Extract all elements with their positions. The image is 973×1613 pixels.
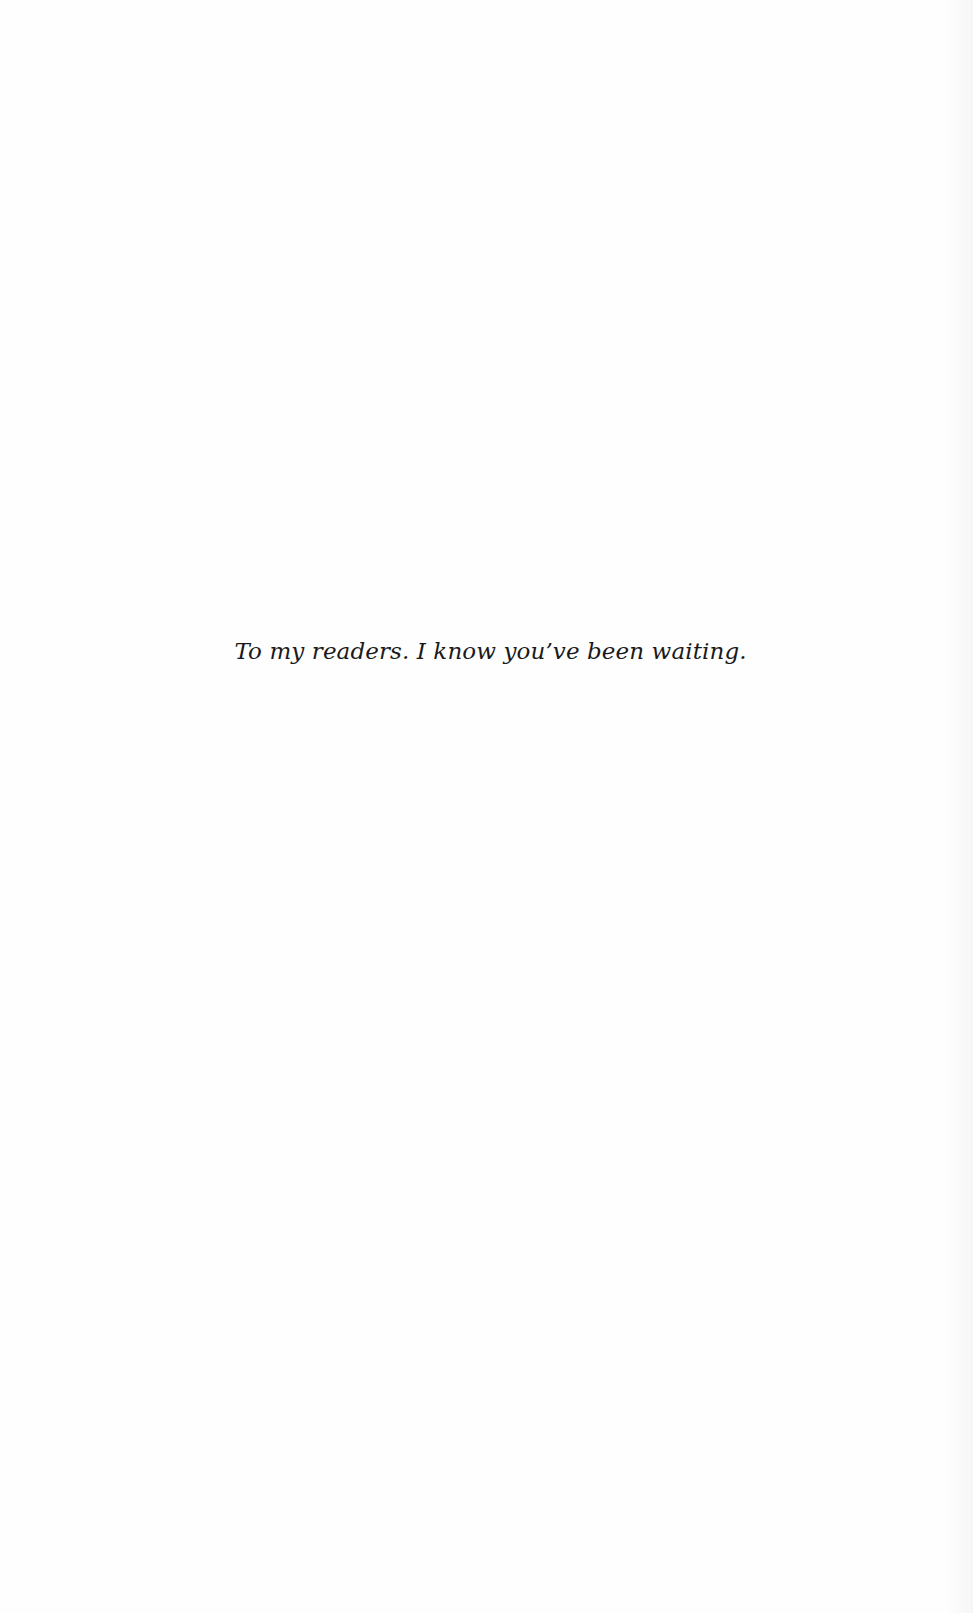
book-page: To my readers. I know you’ve been waitin… — [0, 0, 973, 1613]
page-edge-shadow — [945, 0, 973, 1613]
dedication-text: To my readers. I know you’ve been waitin… — [0, 638, 973, 664]
